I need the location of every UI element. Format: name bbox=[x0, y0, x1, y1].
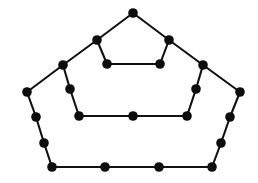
graph-vertex-outer-right-shoulder bbox=[198, 60, 208, 70]
graph-edge-v0-v1 bbox=[97, 13, 133, 40]
graph-vertex-outer-upper-right bbox=[164, 35, 174, 45]
graph-figure bbox=[0, 0, 258, 183]
graph-vertex-middle-right-upper bbox=[191, 84, 201, 94]
graph-vertex-inner-left bbox=[102, 59, 112, 69]
graph-vertex-outer-upper-left bbox=[92, 35, 102, 45]
graph-vertex-bottom-mid-left bbox=[100, 162, 110, 172]
graph-vertex-outer-right-lower-mid bbox=[216, 138, 226, 148]
graph-vertex-outer-left-lower-mid bbox=[39, 138, 49, 148]
graph-canvas bbox=[0, 0, 258, 183]
graph-vertex-outer-apex bbox=[128, 8, 138, 18]
graph-vertex-outer-left-corner bbox=[22, 87, 32, 97]
graph-vertex-outer-left-upper-mid bbox=[31, 112, 41, 122]
graph-vertex-bottom-left-corner bbox=[47, 162, 57, 172]
graph-edge-v1-v3 bbox=[63, 40, 97, 65]
graph-vertex-middle-left-upper bbox=[65, 84, 75, 94]
graph-edge-v3-v5 bbox=[27, 65, 63, 92]
graph-vertex-bottom-mid-right bbox=[154, 162, 164, 172]
graph-vertex-middle-left-lower bbox=[74, 111, 84, 121]
graph-vertex-bottom-right-corner bbox=[207, 162, 217, 172]
graph-vertex-outer-left-shoulder bbox=[58, 60, 68, 70]
vertex-layer bbox=[22, 8, 245, 172]
graph-vertex-outer-right-upper-mid bbox=[225, 112, 235, 122]
graph-vertex-middle-bottom-center bbox=[128, 111, 138, 121]
edge-layer bbox=[27, 13, 240, 167]
graph-edge-v2-v4 bbox=[169, 40, 203, 65]
graph-edge-v4-v6 bbox=[203, 65, 240, 92]
graph-vertex-inner-right bbox=[155, 59, 165, 69]
graph-edge-v0-v2 bbox=[133, 13, 169, 40]
graph-vertex-outer-right-corner bbox=[235, 87, 245, 97]
graph-vertex-middle-right-lower bbox=[182, 111, 192, 121]
